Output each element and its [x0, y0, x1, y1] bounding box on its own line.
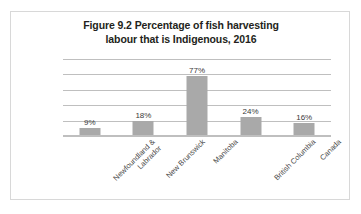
bar[interactable]: [240, 117, 261, 135]
category-label: Newfoundland &Labrador: [112, 138, 163, 189]
bar[interactable]: [294, 123, 315, 135]
bar-slot: 16%: [277, 58, 331, 135]
category-label: Canada: [318, 138, 343, 163]
category-label: Manitoba: [212, 138, 240, 166]
plot-area: 9%18%77%24%16%: [63, 59, 331, 136]
bar-value-label: 24%: [243, 107, 259, 116]
figure-frame: Figure 9.2 Percentage of fish harvesting…: [10, 11, 350, 200]
category-label: New Brunswick: [165, 138, 207, 180]
bar-slot: 24%: [224, 58, 278, 135]
chart-title-line-2: labour that is Indigenous, 2016: [11, 33, 351, 47]
category-label-line: New Brunswick: [165, 138, 207, 180]
bar-slot: 77%: [170, 58, 224, 135]
axis-baseline: [63, 135, 331, 136]
bar[interactable]: [186, 76, 207, 135]
category-label-line: Manitoba: [212, 138, 240, 166]
category-label-line: Canada: [318, 138, 343, 163]
bar-value-label: 18%: [135, 111, 151, 120]
bar[interactable]: [79, 128, 100, 135]
chart-title: Figure 9.2 Percentage of fish harvesting…: [11, 19, 351, 46]
bar-slot: 18%: [117, 58, 171, 135]
category-label-line: British Columbia: [273, 138, 318, 183]
category-label: British Columbia: [273, 138, 318, 183]
bar-value-label: 16%: [296, 113, 312, 122]
bar-slot: 9%: [63, 58, 117, 135]
bar-value-label: 77%: [189, 66, 205, 75]
category-axis: Newfoundland &LabradorNew BrunswickManit…: [63, 138, 331, 198]
bar[interactable]: [133, 121, 154, 135]
bar-value-label: 9%: [84, 118, 96, 127]
gridline: [63, 136, 331, 137]
chart-title-line-1: Figure 9.2 Percentage of fish harvesting: [11, 19, 351, 33]
